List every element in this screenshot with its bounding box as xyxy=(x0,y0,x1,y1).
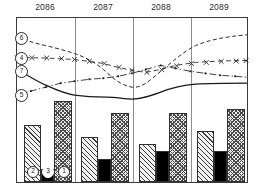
bar-2089-series-2 xyxy=(197,131,214,182)
bar-2089-series-1 xyxy=(227,109,245,182)
x-tick-2088: 2088 xyxy=(132,2,190,12)
bar-key-2: 2 xyxy=(27,166,39,178)
bar-key-3: 3 xyxy=(42,166,54,178)
x-tick-2089: 2089 xyxy=(190,2,248,12)
bar-2088-series-3 xyxy=(156,151,169,182)
bar-2087-series-2 xyxy=(81,137,98,182)
bar-2089-series-3 xyxy=(214,151,227,182)
bar-2087-series-3 xyxy=(98,159,111,182)
plot-area: 6 4 7 5 2 3 1 xyxy=(16,17,248,183)
bar-series-layer: 2 3 1 xyxy=(17,16,247,182)
chart-figure: 2086 2087 2088 2089 xyxy=(0,0,265,196)
x-tick-2087: 2087 xyxy=(74,2,132,12)
bar-key-1: 1 xyxy=(58,166,70,178)
x-tick-2086: 2086 xyxy=(16,2,74,12)
bar-2088-series-2 xyxy=(139,144,156,182)
bar-2088-series-1 xyxy=(169,113,187,182)
bar-2087-series-1 xyxy=(111,113,129,182)
